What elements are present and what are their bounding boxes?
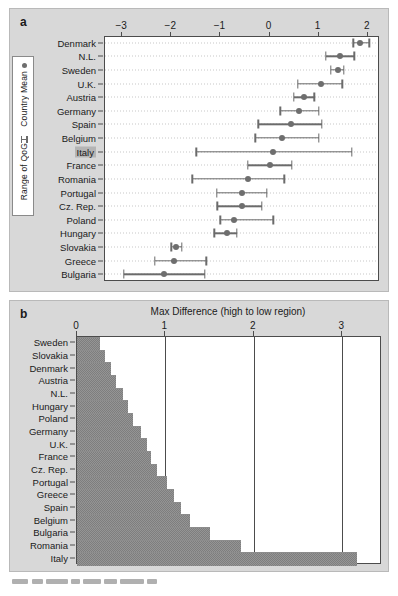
range-cap <box>280 106 281 115</box>
bar <box>77 514 190 528</box>
category-tick-a <box>98 151 103 152</box>
range-cap <box>354 52 355 61</box>
category-tick-b <box>70 557 75 558</box>
mean-dot <box>239 203 245 209</box>
category-tick-a <box>98 274 103 275</box>
bar <box>77 502 181 516</box>
category-tick-a <box>98 165 103 166</box>
range-cap <box>205 256 206 265</box>
category-label-b: Belgium <box>34 514 68 525</box>
x-tick-label-b: 2 <box>250 320 256 331</box>
mean-dot <box>279 135 285 141</box>
category-label-b: Germany <box>29 426 68 437</box>
category-tick-b <box>70 443 75 444</box>
category-tick-a <box>98 70 103 71</box>
legend-label-range-qog: Range of QoG <box>19 143 29 200</box>
mean-dot <box>239 190 245 196</box>
category-label-a: France <box>66 160 96 171</box>
category-tick-b <box>70 481 75 482</box>
mean-dot <box>270 149 276 155</box>
category-label-b: Hungary <box>32 400 68 411</box>
range-cap <box>236 229 237 238</box>
mean-dot <box>267 162 273 168</box>
category-label-b: France <box>38 451 68 462</box>
category-label-b: Bulgaria <box>33 527 68 538</box>
mean-dot <box>231 217 237 223</box>
category-label-a: Greece <box>65 255 96 266</box>
range-cap <box>330 66 331 75</box>
bar <box>77 426 141 440</box>
range-cap <box>368 38 369 47</box>
category-tick-a <box>98 206 103 207</box>
category-label-a: Belgium <box>62 133 96 144</box>
category-label-a: Hungary <box>60 228 96 239</box>
x-tick-mark-a <box>318 32 319 37</box>
row-guide <box>105 260 378 261</box>
category-label-a: Bulgaria <box>61 269 96 280</box>
category-tick-b <box>70 494 75 495</box>
range-cap <box>220 215 221 224</box>
category-tick-a <box>98 56 103 57</box>
category-label-a: Italy <box>75 146 96 157</box>
country-mean-dot-icon <box>22 63 27 68</box>
category-label-b: Poland <box>38 413 68 424</box>
mean-dot <box>318 81 324 87</box>
category-label-b: Romania <box>30 540 68 551</box>
category-label-a: Germany <box>57 105 96 116</box>
x-tick-mark-b <box>253 331 254 336</box>
bar <box>77 527 210 541</box>
x-tick-label-a: 0 <box>266 20 272 31</box>
mean-dot <box>337 53 343 59</box>
row-guide <box>105 165 378 166</box>
bar <box>77 375 116 389</box>
x-tick-mark-b <box>341 331 342 336</box>
range-line <box>255 137 319 138</box>
bar <box>77 350 105 364</box>
category-tick-a <box>98 42 103 43</box>
plot-area-b <box>76 336 381 564</box>
category-label-a: Denmark <box>57 37 96 48</box>
x-tick-label-a: 1 <box>315 20 321 31</box>
range-cap <box>217 202 218 211</box>
range-cap <box>291 161 292 170</box>
category-label-a: U.K. <box>78 78 96 89</box>
bar <box>77 388 123 402</box>
x-tick-label-a: −3 <box>115 20 126 31</box>
range-cap <box>341 79 342 88</box>
x-tick-mark-b <box>164 331 165 336</box>
category-tick-b <box>70 469 75 470</box>
category-label-a: Poland <box>66 214 96 225</box>
range-cap <box>273 215 274 224</box>
row-guide <box>105 138 378 139</box>
range-cap <box>196 147 197 156</box>
bar <box>77 400 128 414</box>
range-cap <box>266 188 267 197</box>
range-cap <box>325 52 326 61</box>
category-label-a: Austria <box>66 92 96 103</box>
mean-dot <box>171 258 177 264</box>
category-label-b: Austria <box>38 375 68 386</box>
category-tick-a <box>98 260 103 261</box>
bar <box>77 476 167 490</box>
range-line <box>192 178 284 179</box>
category-label-a: N.L. <box>79 51 96 62</box>
category-tick-a <box>98 246 103 247</box>
x-tick-label-a: 2 <box>364 20 370 31</box>
category-tick-a <box>98 233 103 234</box>
category-tick-a <box>98 83 103 84</box>
range-cap <box>321 120 322 129</box>
category-label-b: Spain <box>44 502 68 513</box>
x-tick-label-a: −1 <box>214 20 225 31</box>
category-tick-b <box>70 342 75 343</box>
x-tick-label-b: 3 <box>338 320 344 331</box>
x-tick-label-a: −2 <box>165 20 176 31</box>
category-tick-b <box>70 355 75 356</box>
category-label-b: Slovakia <box>32 350 68 361</box>
category-label-b: Denmark <box>29 362 68 373</box>
range-cap <box>154 256 155 265</box>
x-tick-mark-a <box>367 32 368 37</box>
bar <box>77 552 357 566</box>
range-cap <box>261 202 262 211</box>
category-label-a: Portugal <box>61 187 96 198</box>
row-guide <box>105 233 378 234</box>
